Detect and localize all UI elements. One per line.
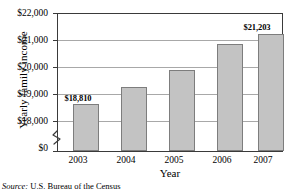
x-axis-title: Year xyxy=(57,167,283,179)
y-tick-label: $21,000 xyxy=(2,35,48,45)
y-tick-label: $0 xyxy=(2,143,48,153)
gridline xyxy=(58,67,282,68)
y-tick-label: $19,000 xyxy=(2,89,48,99)
y-tick-label: $20,000 xyxy=(2,62,48,72)
plot-area xyxy=(57,13,283,152)
x-tick-label-2007: 2007 xyxy=(246,155,280,165)
x-tick-label-2006: 2006 xyxy=(205,155,239,165)
x-tick-label-2004: 2004 xyxy=(109,155,143,165)
y-tick-label: $18,000 xyxy=(2,116,48,126)
bar-value-label-2007: $21,203 xyxy=(233,22,281,32)
x-tick-label-2003: 2003 xyxy=(61,155,95,165)
bar-chart-figure: Yearly family income $22,000 $21,000 $20… xyxy=(0,0,291,196)
y-axis-tick-labels: $22,000 $21,000 $20,000 $19,000 $18,000 … xyxy=(0,0,48,196)
bar-2003 xyxy=(73,104,99,151)
axis-break-icon xyxy=(50,130,64,146)
source-label: Source: xyxy=(2,181,28,191)
bar-2006 xyxy=(217,44,243,151)
bar-2004 xyxy=(121,87,147,151)
bar-2005 xyxy=(169,70,195,151)
source-text: U.S. Bureau of the Census xyxy=(30,181,120,191)
gridline xyxy=(58,40,282,41)
source-note: Source: U.S. Bureau of the Census xyxy=(2,181,120,191)
x-tick-label-2005: 2005 xyxy=(157,155,191,165)
y-tick-label: $22,000 xyxy=(2,8,48,18)
bar-2007 xyxy=(258,34,284,151)
bar-value-label-2003: $18,810 xyxy=(54,93,102,103)
